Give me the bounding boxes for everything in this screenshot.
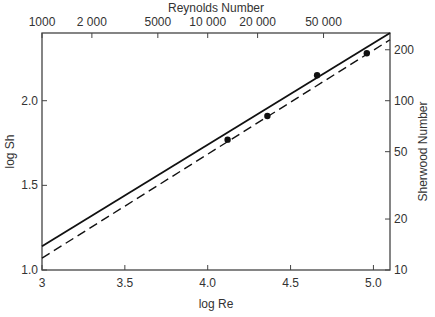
- right-tick-label: 200: [394, 43, 414, 57]
- right-tick-label: 20: [394, 212, 408, 226]
- x-tick-label: 4.0: [199, 276, 216, 290]
- x-axis-label: log Re: [199, 297, 234, 311]
- top-tick-label: 10 000: [189, 15, 226, 29]
- x-tick-label: 5.0: [365, 276, 382, 290]
- x-tick-label: 4.5: [282, 276, 299, 290]
- top-tick-label: 2 000: [77, 15, 107, 29]
- top-tick-label: 5000: [144, 15, 171, 29]
- right-axis-label: Sherwood Number: [416, 101, 430, 201]
- y-tick-label: 2.0: [21, 94, 38, 108]
- top-axis-label: Reynolds Number: [168, 1, 264, 15]
- dashed-line: [42, 40, 390, 258]
- y-axis-label: log Sh: [3, 134, 17, 168]
- plot-frame: [42, 33, 390, 270]
- right-tick-label: 50: [394, 145, 408, 159]
- data-point: [364, 50, 370, 56]
- data-point: [224, 136, 230, 142]
- top-tick-label: 1000: [29, 15, 56, 29]
- x-tick-label: 3: [39, 276, 46, 290]
- right-tick-label: 10: [394, 263, 408, 277]
- data-point: [314, 72, 320, 78]
- solid-line: [42, 33, 390, 246]
- y-tick-label: 1.5: [21, 178, 38, 192]
- top-tick-label: 50 000: [305, 15, 342, 29]
- data-point: [264, 113, 270, 119]
- top-tick-label: 20 000: [239, 15, 276, 29]
- x-tick-label: 3.5: [117, 276, 134, 290]
- chart: 33.54.04.55.01.01.52.010002 000500010 00…: [0, 0, 435, 317]
- y-tick-label: 1.0: [21, 263, 38, 277]
- right-tick-label: 100: [394, 94, 414, 108]
